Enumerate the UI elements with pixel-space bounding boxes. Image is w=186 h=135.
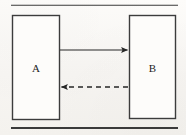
figure-container: A B xyxy=(0,0,186,135)
block-b-label: B xyxy=(149,62,156,74)
block-diagram-canvas: A B xyxy=(0,0,186,135)
block-b: B xyxy=(130,16,176,119)
block-a: A xyxy=(13,16,60,120)
block-a-label: A xyxy=(32,62,40,74)
